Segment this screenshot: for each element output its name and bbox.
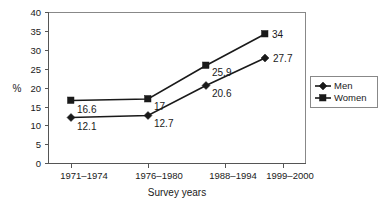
data-label: 34 bbox=[272, 29, 284, 40]
y-tick-label: 30 bbox=[30, 45, 41, 56]
series-men: 12.1 12.7 20.6 27.7 bbox=[67, 53, 293, 132]
y-tick-label: 10 bbox=[30, 120, 41, 131]
legend-label: Women bbox=[334, 92, 367, 103]
data-point-marker bbox=[144, 112, 152, 120]
y-tick-label: 35 bbox=[30, 26, 41, 37]
x-tick-label: 1988–1994 bbox=[209, 170, 257, 181]
x-tick-label: 1999–2000 bbox=[266, 170, 314, 181]
data-label: 12.7 bbox=[154, 118, 174, 129]
y-tick-label: 5 bbox=[36, 139, 41, 150]
x-axis-tick-labels: 1971–1974 1976–1980 1988–1994 1999–2000 bbox=[60, 170, 314, 181]
y-axis-tick-labels: 0 5 10 15 20 25 30 35 40 bbox=[30, 7, 41, 169]
legend-label: Men bbox=[334, 80, 352, 91]
data-label: 16.6 bbox=[77, 104, 97, 115]
chart-container: 0 5 10 15 20 25 30 35 40 % 1971–1974 197… bbox=[0, 0, 384, 206]
data-point-marker bbox=[203, 62, 210, 69]
square-marker-icon bbox=[320, 95, 327, 102]
y-tick-label: 25 bbox=[30, 64, 41, 75]
y-tick-label: 40 bbox=[30, 7, 41, 18]
data-point-marker bbox=[68, 97, 75, 104]
data-label: 27.7 bbox=[273, 53, 293, 64]
data-label: 25.9 bbox=[212, 67, 232, 78]
data-label: 20.6 bbox=[212, 88, 232, 99]
data-point-marker bbox=[261, 54, 269, 62]
data-point-marker bbox=[145, 96, 152, 103]
y-axis-ticks bbox=[45, 13, 49, 164]
x-tick-label: 1976–1980 bbox=[135, 170, 183, 181]
data-point-marker bbox=[262, 31, 269, 38]
chart-legend: Men Women bbox=[311, 77, 378, 108]
y-axis-title: % bbox=[13, 83, 22, 94]
x-tick-label: 1971–1974 bbox=[60, 170, 108, 181]
data-point-marker bbox=[202, 82, 210, 90]
series-women-line bbox=[71, 34, 265, 101]
y-tick-label: 20 bbox=[30, 83, 41, 94]
y-tick-label: 15 bbox=[30, 102, 41, 113]
x-axis-title: Survey years bbox=[148, 187, 206, 198]
data-point-marker bbox=[67, 114, 75, 122]
data-label: 12.1 bbox=[77, 121, 97, 132]
x-axis-ticks bbox=[72, 164, 284, 168]
line-chart: 0 5 10 15 20 25 30 35 40 % 1971–1974 197… bbox=[0, 0, 384, 206]
y-tick-label: 0 bbox=[36, 158, 41, 169]
